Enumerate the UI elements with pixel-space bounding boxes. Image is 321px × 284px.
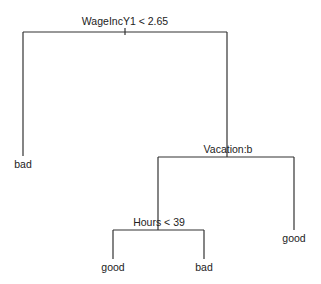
left-leaf-label: bad bbox=[14, 158, 32, 170]
hours-node-label: Hours < 39 bbox=[133, 216, 185, 228]
hours-right-leaf-label: bad bbox=[195, 261, 213, 273]
vacation-node-label: Vacation:b bbox=[204, 143, 253, 155]
tree-lines bbox=[0, 0, 321, 284]
vacation-right-leaf-label: good bbox=[282, 232, 305, 244]
hours-left-leaf-label: good bbox=[101, 261, 124, 273]
root-node-label: WageIncY1 < 2.65 bbox=[82, 15, 168, 27]
